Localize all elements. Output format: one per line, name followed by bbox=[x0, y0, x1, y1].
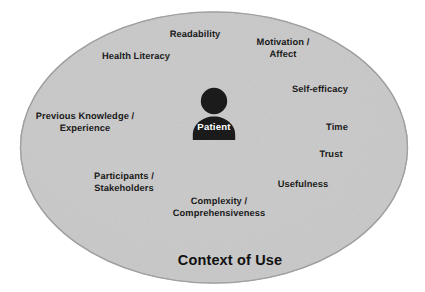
factor-label: Motivation / Affect bbox=[257, 37, 310, 60]
factor-label: Complexity / Comprehensiveness bbox=[173, 196, 266, 219]
factor-label: Participants / Stakeholders bbox=[94, 171, 154, 194]
factor-label: Trust bbox=[319, 149, 342, 161]
factor-label: Self-efficacy bbox=[292, 84, 348, 96]
diagram-title: Context of Use bbox=[178, 252, 282, 268]
factor-label: Usefulness bbox=[278, 179, 329, 191]
factor-label: Health Literacy bbox=[102, 51, 170, 63]
factor-label: Previous Knowledge / Experience bbox=[36, 111, 135, 134]
factor-label: Time bbox=[326, 122, 348, 134]
factor-label: Readability bbox=[170, 29, 221, 41]
diagram-canvas: Readability Motivation / Affect Health L… bbox=[0, 0, 425, 292]
context-of-use-ellipse bbox=[19, 11, 409, 284]
center-entity-label: Patient bbox=[189, 121, 239, 132]
